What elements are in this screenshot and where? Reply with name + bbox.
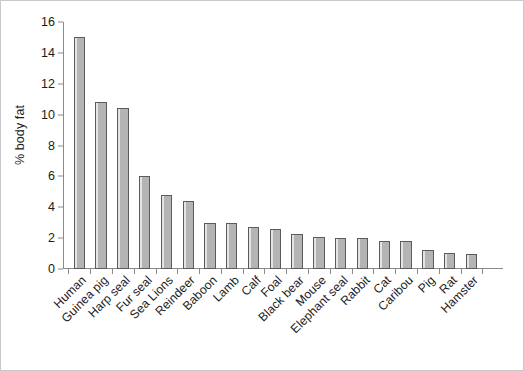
bar bbox=[139, 176, 150, 269]
bar bbox=[313, 237, 324, 269]
bar bbox=[204, 223, 215, 269]
bar bbox=[74, 37, 85, 269]
bar bbox=[95, 102, 106, 269]
x-axis-labels: HumanGuinea pigHarp sealFur sealSea Lion… bbox=[63, 273, 503, 371]
bar bbox=[422, 250, 433, 269]
bar bbox=[466, 254, 477, 269]
y-tick-label: 0 bbox=[48, 262, 55, 276]
bar bbox=[379, 241, 390, 269]
bar bbox=[400, 241, 411, 269]
bar bbox=[335, 238, 346, 269]
y-tick-label: 16 bbox=[41, 15, 55, 29]
y-axis-title-text: % body fat bbox=[13, 105, 27, 165]
bars-layer bbox=[63, 22, 503, 269]
plot-area: 0246810121416 bbox=[63, 22, 503, 269]
bar bbox=[183, 201, 194, 269]
bar bbox=[248, 227, 259, 269]
y-tick-label: 4 bbox=[48, 200, 55, 214]
bar bbox=[226, 223, 237, 269]
y-axis-title: % body fat bbox=[7, 1, 33, 269]
y-tick-label: 8 bbox=[48, 139, 55, 153]
y-tick-label: 14 bbox=[41, 46, 55, 60]
bar bbox=[270, 229, 281, 269]
bar bbox=[117, 108, 128, 269]
bar bbox=[357, 238, 368, 269]
bar bbox=[161, 195, 172, 269]
y-tick-label: 6 bbox=[48, 169, 55, 183]
bar bbox=[291, 234, 302, 270]
y-tick-label: 2 bbox=[48, 231, 55, 245]
bar bbox=[444, 253, 455, 269]
y-tick-label: 10 bbox=[41, 108, 55, 122]
x-tick-label: Pig bbox=[415, 273, 438, 296]
x-tick-label: Calf bbox=[238, 273, 264, 299]
bar-chart-figure: % body fat 0246810121416 HumanGuinea pig… bbox=[0, 0, 524, 371]
y-tick-label: 12 bbox=[41, 77, 55, 91]
